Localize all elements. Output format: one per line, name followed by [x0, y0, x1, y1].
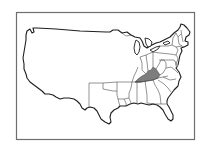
us-map: Kentucky [0, 0, 203, 145]
map-svg [0, 0, 203, 145]
